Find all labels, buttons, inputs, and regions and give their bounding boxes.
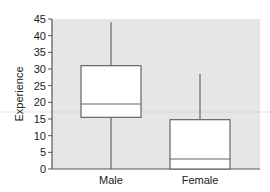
y-tick-label: 5 [40,146,46,158]
y-tick-label: 15 [34,113,46,125]
y-axis-title: Experience [13,66,25,121]
y-tick-label: 25 [34,80,46,92]
y-tick-label: 45 [34,13,46,25]
y-tick-label: 40 [34,30,46,42]
x-axis-labels: MaleFemale [99,174,218,186]
y-tick-label: 0 [40,163,46,175]
y-tick-label: 20 [34,96,46,108]
iqr-box [81,66,141,118]
y-tick-label: 10 [34,130,46,142]
y-tick-label: 35 [34,46,46,58]
x-category-label: Female [182,174,219,186]
boxplot-chart: 051015202530354045 MaleFemale Experience [0,0,270,192]
x-category-label: Male [99,174,123,186]
iqr-box [170,120,230,169]
y-tick-label: 30 [34,63,46,75]
